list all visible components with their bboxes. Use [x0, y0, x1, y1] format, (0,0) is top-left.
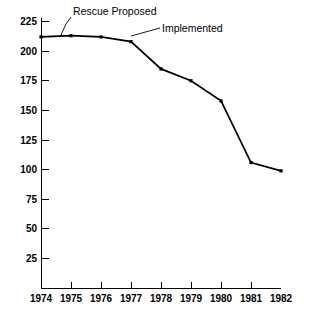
x-tick-label: 1980: [210, 293, 233, 304]
x-tick-label: 1981: [240, 293, 263, 304]
x-tick-label: 1977: [120, 293, 143, 304]
data-point-marker: [99, 35, 102, 38]
y-tick-label: 175: [20, 75, 37, 86]
data-point-marker: [249, 161, 252, 164]
y-tick-label: 225: [20, 16, 37, 27]
y-tick-label: 200: [20, 46, 37, 57]
y-tick-label: 100: [20, 164, 37, 175]
y-axis-tick-labels: 225 200 175 150 125 100 75 50 25: [20, 16, 37, 264]
x-tick-label: 1982: [270, 293, 293, 304]
y-tick-label: 25: [26, 253, 38, 264]
annotation-implemented: Implemented: [162, 22, 223, 34]
data-point-marker: [279, 169, 282, 172]
annotation-rescue-proposed: Rescue Proposed: [73, 5, 157, 17]
x-axis-ticks: [72, 282, 252, 289]
data-series-line: [41, 36, 281, 171]
x-tick-label: 1978: [150, 293, 173, 304]
data-point-marker: [69, 34, 72, 37]
x-tick-label: 1974: [30, 293, 53, 304]
y-tick-label: 125: [20, 135, 37, 146]
y-axis-ticks: [42, 22, 49, 259]
x-tick-label: 1975: [60, 293, 83, 304]
x-tick-label: 1976: [90, 293, 113, 304]
implemented-leader-line: [131, 28, 160, 36]
data-point-marker: [189, 79, 192, 82]
data-point-marker: [39, 35, 42, 38]
chart-canvas: 225 200 175 150 125 100 75 50 25 1974 19…: [0, 0, 309, 321]
x-tick-label: 1979: [180, 293, 203, 304]
line-chart: 225 200 175 150 125 100 75 50 25 1974 19…: [0, 0, 309, 321]
data-point-marker: [219, 99, 222, 102]
x-axis-tick-labels: 1974 1975 1976 1977 1978 1979 1980 1981 …: [30, 293, 293, 304]
y-tick-label: 150: [20, 105, 37, 116]
data-point-marker: [159, 67, 162, 70]
y-tick-label: 75: [26, 194, 38, 205]
data-point-marker: [129, 40, 132, 43]
y-tick-label: 50: [26, 223, 38, 234]
rescue-proposed-leader-line: [60, 17, 71, 37]
